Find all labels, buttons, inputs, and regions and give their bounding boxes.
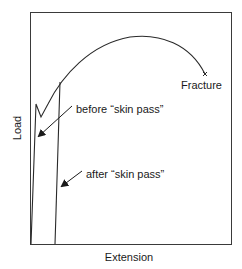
fracture-x-icon: [203, 72, 207, 76]
before-skin-pass-label: before “skin pass”: [76, 103, 164, 115]
load-extension-diagram: Fracture before “skin pass” after “skin …: [0, 0, 242, 269]
fracture-label: Fracture: [181, 79, 222, 91]
after-skin-pass-line: [55, 82, 60, 244]
x-axis-label: Extension: [105, 251, 153, 263]
before-skin-pass-curve: [31, 36, 205, 244]
after-arrow-icon: [62, 171, 82, 186]
y-axis-label: Load: [11, 116, 23, 140]
plot-frame: [31, 13, 232, 245]
after-skin-pass-label: after “skin pass”: [86, 168, 165, 180]
